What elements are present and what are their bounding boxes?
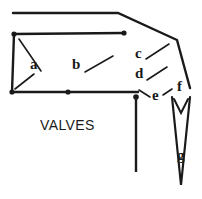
valves-diagram-svg xyxy=(0,0,202,199)
leader-c xyxy=(146,44,169,59)
label-a: a xyxy=(30,57,38,72)
left-edge xyxy=(12,34,14,92)
dot-second-rail-right xyxy=(121,30,126,35)
label-e: e xyxy=(152,88,159,103)
second-rail xyxy=(14,33,124,34)
f-arrowhead xyxy=(174,99,188,113)
valves-figure: a b c d e f g VALVES xyxy=(0,0,202,199)
label-f: f xyxy=(177,79,182,94)
valves-caption: VALVES xyxy=(40,118,95,132)
top-rail-outline xyxy=(13,13,190,88)
leader-e-right xyxy=(163,89,172,95)
right-inner-edge xyxy=(124,33,138,92)
leader-e-left xyxy=(139,90,150,97)
dot-second-rail-left xyxy=(11,31,16,36)
label-b: b xyxy=(72,57,80,72)
dot-stem-top xyxy=(133,94,139,100)
label-c: c xyxy=(135,46,142,61)
leader-d xyxy=(147,67,167,80)
dot-bottom-rail-left xyxy=(9,89,14,94)
label-d: d xyxy=(135,66,143,81)
leader-b xyxy=(85,56,113,72)
dot-bottom-rail-mid xyxy=(65,89,70,94)
leader-a-lower xyxy=(15,74,34,89)
span-g-outline xyxy=(172,97,190,185)
label-g: g xyxy=(177,148,185,163)
